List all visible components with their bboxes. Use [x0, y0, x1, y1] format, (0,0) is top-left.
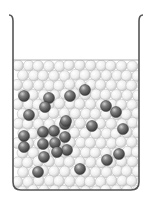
solvent-particle: [127, 61, 138, 72]
solute-particle: [38, 127, 49, 138]
solvent-particle: [106, 175, 117, 186]
solvent-particle: [17, 186, 28, 197]
solute-particle: [75, 164, 86, 175]
solvent-particle: [53, 176, 64, 187]
solute-particle: [40, 102, 51, 113]
solvent-particle: [69, 186, 80, 197]
solvent-particle: [18, 167, 29, 178]
solvent-particle: [90, 70, 101, 81]
solute-particle: [62, 145, 73, 156]
solvent-particle: [126, 80, 137, 91]
solvent-particle: [59, 166, 70, 177]
solute-particle: [111, 107, 122, 118]
solvent-particle: [106, 80, 117, 91]
solute-particle: [65, 91, 76, 102]
solute-particle: [39, 152, 50, 163]
solute-particle: [61, 116, 72, 127]
solvent-particle: [137, 118, 148, 129]
solvent-particle: [74, 60, 85, 71]
solute-particle: [24, 110, 35, 121]
solute-particle: [60, 132, 71, 143]
solvent-particle: [38, 70, 49, 81]
solvent-particle: [80, 186, 91, 197]
solute-particle: [19, 142, 30, 153]
solute-particle: [19, 131, 30, 142]
solvent-particle: [22, 80, 33, 91]
solvent-particle: [121, 166, 132, 177]
solute-particle: [19, 91, 30, 102]
solvent-particle: [18, 70, 29, 81]
solvent-particle: [85, 157, 96, 168]
solvent-particle: [105, 60, 116, 71]
beaker-diagram: [0, 0, 149, 200]
solvent-particle: [121, 70, 132, 81]
solvent-particle: [85, 137, 96, 148]
solute-particle: [87, 121, 98, 132]
solvent-particle: [90, 108, 101, 119]
solvent-particle: [79, 70, 90, 81]
solvent-particle: [64, 176, 75, 187]
solvent-particle: [116, 137, 127, 148]
solvent-particle: [131, 147, 142, 158]
solvent-particle: [116, 61, 127, 72]
solvent-particle: [91, 186, 102, 197]
solvent-particle: [43, 61, 54, 72]
solvent-particle: [132, 71, 143, 82]
solute-particle: [33, 167, 44, 178]
solvent-particle: [70, 108, 81, 119]
solvent-particle: [132, 90, 143, 101]
solvent-particle: [127, 156, 138, 167]
solute-particle: [101, 101, 112, 112]
solute-particle: [102, 155, 113, 166]
solvent-particle: [106, 118, 117, 129]
solvent-particle: [132, 108, 143, 119]
solvent-particle: [95, 80, 106, 91]
solvent-particle: [85, 60, 96, 71]
solvent-particle: [64, 156, 75, 167]
solvent-particle: [13, 60, 24, 71]
solvent-particle: [64, 60, 75, 71]
solvent-particle: [122, 90, 133, 101]
solvent-particle: [75, 118, 86, 129]
solute-particle: [118, 124, 129, 135]
solute-particle: [114, 149, 125, 160]
solute-particle: [52, 147, 63, 158]
solvent-particle: [101, 70, 112, 81]
solvent-particle: [48, 70, 59, 81]
solvent-particle: [126, 137, 137, 148]
solvent-particle: [90, 147, 101, 158]
solvent-particle: [54, 98, 65, 109]
solvent-particle: [111, 90, 122, 101]
solvent-particle: [132, 166, 143, 177]
solute-particle: [38, 139, 49, 150]
solvent-particle: [64, 79, 75, 90]
solvent-particle: [33, 80, 44, 91]
solvent-particle: [95, 138, 106, 149]
solute-particle: [49, 126, 60, 137]
solute-particle: [80, 85, 91, 96]
solvent-particle: [22, 157, 33, 168]
solvent-particle: [90, 167, 101, 178]
solvent-particle: [132, 127, 143, 138]
beaker-illustration: [0, 0, 149, 200]
solvent-particle: [33, 60, 44, 71]
solvent-particle: [100, 89, 111, 100]
